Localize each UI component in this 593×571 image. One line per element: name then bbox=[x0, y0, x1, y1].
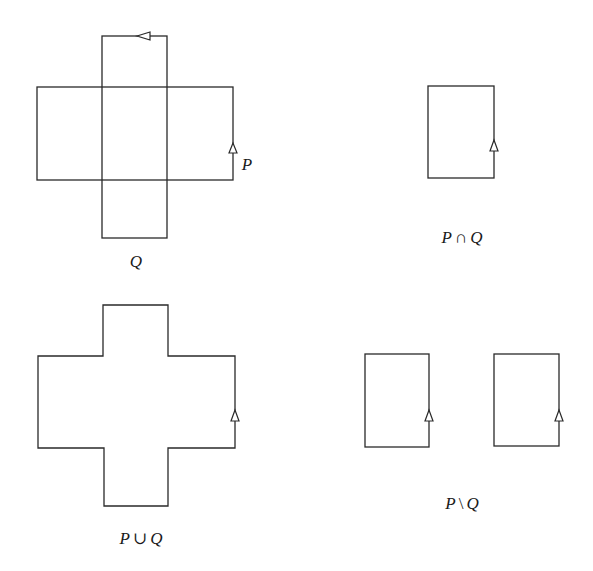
polygon-difference-right bbox=[494, 354, 559, 446]
polygon-intersection bbox=[428, 86, 494, 178]
label-difference-q: Q bbox=[466, 494, 478, 513]
label-intersection-q: Q bbox=[470, 228, 482, 247]
panel-p-and-q bbox=[37, 36, 233, 238]
arrow-up-icon bbox=[555, 410, 563, 421]
label-difference-p: P bbox=[445, 494, 455, 513]
polygon-difference-left bbox=[365, 354, 429, 447]
label-intersection-p: P bbox=[442, 228, 452, 247]
polygon-p bbox=[37, 87, 233, 180]
label-union-q: Q bbox=[150, 529, 162, 548]
label-intersection: P∩Q bbox=[442, 228, 483, 248]
label-q: Q bbox=[130, 252, 142, 272]
arrow-up-icon bbox=[425, 410, 433, 421]
arrow-up-icon bbox=[231, 410, 239, 421]
union-symbol: ∪ bbox=[130, 529, 150, 548]
label-difference: P\Q bbox=[445, 494, 478, 514]
label-union: P∪Q bbox=[120, 528, 163, 549]
label-union-p: P bbox=[120, 529, 130, 548]
arrow-left-icon bbox=[137, 32, 150, 40]
polygon-q bbox=[102, 36, 167, 238]
polygon-union bbox=[38, 305, 235, 506]
set-minus-symbol: \ bbox=[456, 494, 467, 513]
arrow-up-icon bbox=[490, 140, 498, 151]
intersection-symbol: ∩ bbox=[452, 228, 470, 247]
arrow-up-icon bbox=[229, 143, 237, 153]
polygon-set-operations-figure bbox=[0, 0, 593, 571]
label-p: P bbox=[242, 155, 252, 175]
